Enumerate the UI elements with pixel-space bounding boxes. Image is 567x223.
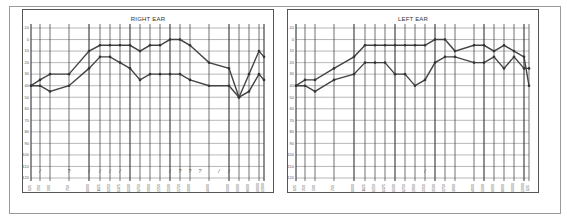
svg-text:5000: 5000	[481, 184, 485, 192]
svg-text:750: 750	[331, 185, 335, 191]
svg-text:500: 500	[312, 185, 316, 191]
svg-text:1750: 1750	[137, 184, 141, 192]
svg-text:40: 40	[25, 83, 30, 88]
svg-text:5000: 5000	[226, 184, 230, 192]
left-ear-chart: -100102030405060708090100110120125250500…	[288, 10, 538, 192]
svg-text:250: 250	[37, 185, 41, 191]
svg-text:30: 30	[25, 71, 30, 76]
svg-text:30: 30	[290, 71, 295, 76]
svg-text:4000: 4000	[471, 184, 475, 192]
svg-text:/: /	[87, 168, 90, 174]
svg-text:-10: -10	[23, 25, 30, 30]
svg-text:10: 10	[25, 48, 30, 53]
svg-text:1250: 1250	[372, 184, 376, 192]
svg-text:250: 250	[302, 185, 306, 191]
svg-text:1375: 1375	[382, 184, 386, 192]
svg-text:/: /	[423, 168, 426, 174]
svg-text:60: 60	[290, 106, 295, 111]
svg-text:2750: 2750	[442, 184, 446, 192]
svg-text:110: 110	[23, 164, 30, 169]
svg-text:?: ?	[199, 168, 202, 174]
svg-text:/: /	[217, 168, 220, 174]
svg-text:12000: 12000	[521, 183, 525, 192]
left-ear-panel: LEFT EAR -100102030405060708090100110120…	[287, 9, 539, 193]
svg-text:/: /	[108, 168, 111, 174]
svg-text:125: 125	[526, 185, 530, 191]
svg-text:40: 40	[290, 83, 295, 88]
svg-text:70: 70	[290, 118, 295, 123]
svg-text:3000: 3000	[452, 184, 456, 192]
svg-text:1375: 1375	[117, 184, 121, 192]
svg-text:2500: 2500	[167, 184, 171, 192]
svg-text:110: 110	[288, 164, 295, 169]
svg-text:2000: 2000	[412, 184, 416, 192]
svg-text:12000: 12000	[261, 183, 265, 192]
svg-text:70: 70	[25, 118, 30, 123]
svg-text:0: 0	[27, 37, 30, 42]
svg-text:?: ?	[68, 168, 71, 174]
right-ear-panel: RIGHT EAR -10010203040506070809010011012…	[22, 9, 274, 193]
svg-text:90: 90	[290, 141, 295, 146]
svg-text:1250: 1250	[107, 184, 111, 192]
svg-text:90: 90	[25, 141, 30, 146]
svg-text:100: 100	[23, 152, 30, 157]
svg-text:/: /	[227, 168, 230, 174]
svg-text:/: /	[38, 168, 41, 174]
svg-text:60: 60	[25, 106, 30, 111]
svg-text:2750: 2750	[177, 184, 181, 192]
svg-text:1125: 1125	[97, 184, 101, 192]
svg-text:20: 20	[25, 60, 30, 65]
svg-text:10000: 10000	[256, 183, 260, 192]
svg-text:500: 500	[47, 185, 51, 191]
svg-text:/: /	[118, 168, 121, 174]
svg-text:-10: -10	[288, 25, 295, 30]
svg-text:80: 80	[25, 129, 30, 134]
svg-text:?: ?	[189, 168, 192, 174]
svg-text:1125: 1125	[362, 184, 366, 192]
svg-text:1750: 1750	[402, 184, 406, 192]
svg-text:120: 120	[288, 175, 295, 180]
svg-text:125: 125	[28, 185, 32, 191]
svg-text:2250: 2250	[422, 184, 426, 192]
svg-text:2000: 2000	[147, 184, 151, 192]
svg-text:10: 10	[290, 48, 295, 53]
svg-text:125: 125	[293, 185, 297, 191]
svg-text:1500: 1500	[392, 184, 396, 192]
svg-text:4000: 4000	[206, 184, 210, 192]
svg-text:10000: 10000	[511, 183, 515, 192]
svg-text:2500: 2500	[432, 184, 436, 192]
svg-text:2250: 2250	[157, 184, 161, 192]
svg-text:0: 0	[292, 37, 295, 42]
svg-text:100: 100	[288, 152, 295, 157]
svg-text:8000: 8000	[501, 184, 505, 192]
svg-text:?: ?	[179, 168, 182, 174]
svg-text:50: 50	[25, 95, 30, 100]
svg-text:3000: 3000	[187, 184, 191, 192]
svg-text:750: 750	[66, 185, 70, 191]
svg-text:1000: 1000	[351, 184, 355, 192]
svg-text:120: 120	[23, 175, 30, 180]
svg-text:/: /	[98, 168, 101, 174]
right-ear-chart: -100102030405060708090100110120125250500…	[23, 10, 273, 192]
svg-text:80: 80	[290, 129, 295, 134]
svg-text:20: 20	[290, 60, 295, 65]
svg-text:1000: 1000	[86, 184, 90, 192]
svg-text:6000: 6000	[236, 184, 240, 192]
svg-text:50: 50	[290, 95, 295, 100]
svg-text:/: /	[168, 168, 171, 174]
svg-text:6000: 6000	[491, 184, 495, 192]
svg-text:8000: 8000	[246, 184, 250, 192]
svg-text:1500: 1500	[127, 184, 131, 192]
